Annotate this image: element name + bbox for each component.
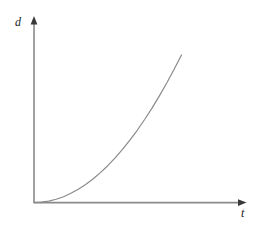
plot-canvas	[0, 0, 268, 225]
x-axis-label: t	[241, 207, 244, 219]
plot-background	[0, 0, 268, 225]
graph-figure: d t	[0, 0, 268, 225]
y-axis-label: d	[15, 16, 21, 28]
